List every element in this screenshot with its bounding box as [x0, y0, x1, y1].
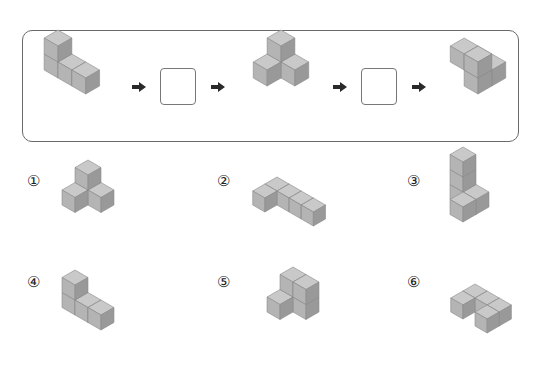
arrow-icon — [132, 82, 146, 92]
blank-box-1[interactable] — [160, 68, 196, 105]
blank-box-2[interactable] — [361, 68, 397, 105]
arrow-icon — [333, 82, 347, 92]
option-2-label: ② — [217, 174, 230, 189]
option-2-figure[interactable] — [242, 183, 342, 243]
end-figure — [438, 48, 528, 128]
middle-figure — [236, 48, 326, 123]
arrow-icon — [412, 82, 426, 92]
option-3-figure[interactable] — [443, 170, 513, 260]
option-1-label: ① — [27, 174, 40, 189]
option-5-label: ⑤ — [217, 275, 230, 290]
option-1-figure[interactable] — [48, 180, 138, 250]
start-figure — [38, 50, 128, 125]
option-6-label: ⑥ — [407, 275, 420, 290]
arrow-icon — [211, 82, 225, 92]
option-3-label: ③ — [407, 174, 420, 189]
option-6-figure[interactable] — [435, 290, 525, 360]
option-4-figure[interactable] — [50, 290, 140, 360]
option-5-figure[interactable] — [258, 285, 338, 365]
option-4-label: ④ — [27, 275, 40, 290]
